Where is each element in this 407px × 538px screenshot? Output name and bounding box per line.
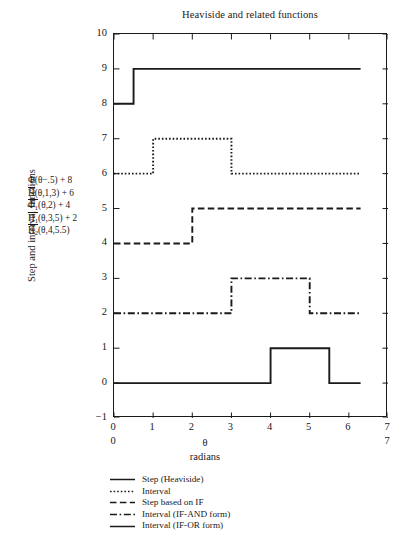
formula-base-2: H <box>28 188 35 198</box>
chart-title: Heaviside and related functions <box>113 9 387 20</box>
legend-row: Interval <box>109 486 230 498</box>
x-tick-label: 6 <box>338 421 358 432</box>
legend-swatch-dotted <box>109 486 136 497</box>
y-tick-label: 2 <box>81 306 107 317</box>
x-tick-label: 7 <box>377 421 397 432</box>
legend-swatch-solid <box>109 521 136 532</box>
series-line-4 <box>114 278 361 313</box>
x-axis-units-label: radians <box>175 451 235 462</box>
formula-overline-2: H <box>28 187 35 199</box>
formula-base-3: Φ <box>28 200 35 210</box>
formula-rest-5: (θ,4,5.5) <box>38 225 70 235</box>
x-axis-label: θ <box>190 437 220 448</box>
x-tick-label-secondary: 0 <box>103 435 123 446</box>
formula-base-5: H <box>28 225 35 235</box>
formula-row-3: Φ1(θ,2) + 4 <box>28 199 114 212</box>
x-tick-label: 3 <box>220 421 240 432</box>
x-tick-label: 0 <box>103 421 123 432</box>
series-line-3 <box>114 209 361 244</box>
figure-canvas: Heaviside and related functions −1012345… <box>0 0 407 538</box>
legend-label: Step based on IF <box>142 497 204 509</box>
chart-legend: Step (Heaviside)IntervalStep based on IF… <box>109 474 230 532</box>
formula-base-4: H <box>28 213 35 223</box>
x-tick-label: 1 <box>142 421 162 432</box>
formula-row-4: H1(θ,3,5) + 2 <box>28 212 114 225</box>
y-tick-label: 4 <box>81 236 107 247</box>
formula-row-2: H(θ,1,3) + 6 <box>28 187 114 200</box>
y-tick-label: 1 <box>81 341 107 352</box>
legend-row: Interval (IF-AND form) <box>109 509 230 521</box>
legend-row: Interval (IF-OR form) <box>109 520 230 532</box>
series-line-1 <box>114 69 361 104</box>
x-tick-label: 5 <box>299 421 319 432</box>
formula-rest-4: (θ,3,5) + 2 <box>38 213 77 223</box>
series-line-5 <box>114 348 361 383</box>
formula-text-1: Φ(θ−.5) + 8 <box>28 175 72 185</box>
x-tick-label: 2 <box>181 421 201 432</box>
series-line-2 <box>114 139 361 174</box>
legend-row: Step (Heaviside) <box>109 474 230 486</box>
legend-swatch-dashed <box>109 497 136 508</box>
x-tick-label: 4 <box>260 421 280 432</box>
x-tick-label-secondary: 7 <box>377 435 397 446</box>
formula-row-1: Φ(θ−.5) + 8 <box>28 174 114 187</box>
legend-row: Step based on IF <box>109 497 230 509</box>
formula-rest-2: (θ,1,3) + 6 <box>35 188 74 198</box>
legend-swatch-solid <box>109 474 136 485</box>
formula-legend: Φ(θ−.5) + 8 H(θ,1,3) + 6 Φ1(θ,2) + 4 H1(… <box>28 174 114 237</box>
legend-label: Interval (IF-AND form) <box>142 509 230 521</box>
y-tick-label: 0 <box>81 376 107 387</box>
formula-overline-5: H2 <box>28 224 38 238</box>
y-tick-label: 9 <box>81 62 107 73</box>
legend-label: Step (Heaviside) <box>142 474 204 486</box>
y-tick-label: 8 <box>81 97 107 108</box>
y-tick-label: 3 <box>81 271 107 282</box>
formula-rest-3: (θ,2) + 4 <box>38 200 70 210</box>
formula-row-5: H2(θ,4,5.5) <box>28 224 114 237</box>
legend-swatch-dashdot <box>109 509 136 520</box>
plot-area <box>113 33 387 417</box>
legend-label: Interval <box>142 486 171 498</box>
legend-label: Interval (IF-OR form) <box>142 520 223 532</box>
plot-svg <box>114 34 388 418</box>
y-tick-label: 7 <box>81 132 107 143</box>
y-tick-label: 10 <box>81 27 107 38</box>
